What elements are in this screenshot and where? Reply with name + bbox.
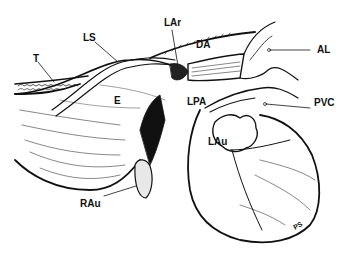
label-LPA: LPA <box>187 97 206 107</box>
label-E: E <box>114 96 121 106</box>
anatomical-diagram <box>0 0 348 256</box>
label-T: T <box>33 54 39 64</box>
label-PVC: PVC <box>314 98 335 108</box>
pointer-PVC <box>266 104 310 108</box>
label-LAu: LAu <box>208 137 227 147</box>
ductus-arteriosus-shape <box>188 54 244 81</box>
pvc-vessel-shape <box>205 87 298 112</box>
al-vessel-shape <box>240 22 298 80</box>
label-DA: DA <box>196 40 210 50</box>
label-LS: LS <box>83 33 96 43</box>
label-RAu: RAu <box>80 199 101 209</box>
label-AL: AL <box>317 45 330 55</box>
right-auricle-shape <box>135 95 165 198</box>
pointer-LS <box>95 42 118 62</box>
junction-shadow <box>170 63 188 80</box>
pointer-T <box>38 62 54 82</box>
label-LAr: LAr <box>164 18 181 28</box>
